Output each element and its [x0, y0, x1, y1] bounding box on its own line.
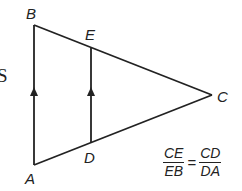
fraction-left: CE EB [163, 146, 184, 178]
segment-bc [34, 25, 212, 95]
numerator-ce: CE [163, 146, 184, 163]
parallel-arrow-icon [87, 87, 95, 96]
parallel-arrow-icon [30, 87, 38, 96]
denominator-eb: EB [163, 163, 184, 179]
vertex-label-c: C [217, 89, 228, 104]
cut-off-text: S [0, 66, 8, 85]
denominator-da: DA [200, 163, 221, 179]
equals-sign: = [187, 154, 196, 171]
vertex-label-d: D [84, 150, 95, 165]
vertex-label-b: B [26, 6, 36, 21]
fraction-right: CD DA [199, 146, 221, 178]
vertex-label-a: A [25, 171, 35, 186]
vertex-label-e: E [85, 27, 95, 42]
proportion-equation: CE EB = CD DA [163, 146, 221, 178]
numerator-cd: CD [199, 146, 221, 163]
